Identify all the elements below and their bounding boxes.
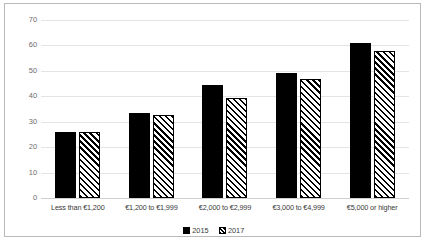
gridline-0: [41, 198, 409, 199]
bar-group: [335, 20, 409, 198]
solid-black-swatch: [183, 227, 190, 234]
bar-2017: [153, 115, 174, 198]
x-axis-tick-labels: Less than €1,200€1,200 to €1,999€2,000 t…: [41, 203, 409, 212]
y-tick-label-30: 30: [7, 117, 37, 126]
bar-2017: [374, 51, 395, 198]
bar-group: [262, 20, 336, 198]
legend-item-2015: 2015: [183, 226, 209, 235]
y-tick-label-0: 0: [7, 193, 37, 202]
y-tick-label-60: 60: [7, 40, 37, 49]
x-tick-label: €5,000 or higher: [335, 203, 409, 212]
chart-legend: 20152017: [5, 226, 422, 235]
plot-area: [41, 20, 409, 198]
bar-2015: [55, 132, 76, 198]
bars-layer: [41, 20, 409, 198]
bar-2017: [300, 79, 321, 199]
bar-2015: [129, 113, 150, 198]
x-tick-label: €3,000 to €4,999: [262, 203, 336, 212]
legend-label: 2017: [228, 226, 244, 235]
bar-group: [115, 20, 189, 198]
legend-label: 2015: [192, 226, 208, 235]
x-tick-label: Less than €1,200: [41, 203, 115, 212]
bar-2015: [276, 73, 297, 198]
y-tick-label-10: 10: [7, 168, 37, 177]
legend-item-2017: 2017: [219, 226, 245, 235]
bar-2015: [202, 85, 223, 198]
bar-2015: [350, 43, 371, 198]
bar-group: [41, 20, 115, 198]
y-tick-label-40: 40: [7, 91, 37, 100]
y-tick-label-70: 70: [7, 15, 37, 24]
y-tick-label-50: 50: [7, 66, 37, 75]
chart-frame: 010203040506070 Less than €1,200€1,200 t…: [4, 3, 421, 237]
hatched-swatch: [219, 227, 226, 234]
bar-2017: [79, 132, 100, 198]
bar-group: [188, 20, 262, 198]
x-tick-label: €1,200 to €1,999: [115, 203, 189, 212]
bar-2017: [226, 98, 247, 198]
y-tick-label-20: 20: [7, 142, 37, 151]
x-tick-label: €2,000 to €2,999: [188, 203, 262, 212]
